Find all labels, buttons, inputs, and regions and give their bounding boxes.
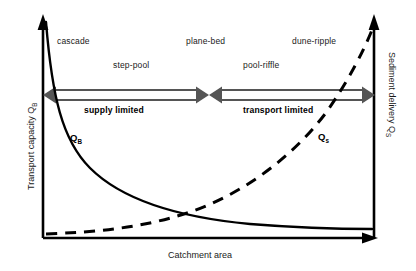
curve-label-qb-sub: B bbox=[77, 138, 82, 145]
channel-type-dune-ripple: dune-ripple bbox=[292, 36, 336, 46]
channel-type-step-pool: step-pool bbox=[113, 60, 149, 70]
diagram-canvas: cascade plane-bed dune-ripple step-pool … bbox=[0, 0, 416, 271]
y-axis-left-title-text: Transport capacity Q bbox=[26, 107, 36, 190]
regime-label-transport-limited: transport limited bbox=[243, 105, 313, 115]
curve-transport-capacity-qb bbox=[46, 22, 372, 229]
curve-label-qs: Qs bbox=[318, 131, 329, 144]
regime-arrow-group bbox=[43, 87, 375, 104]
regime-label-supply-limited: supply limited bbox=[84, 105, 144, 115]
y-axis-right-title: Sediment delivery QS bbox=[385, 52, 397, 137]
x-axis-title: Catchment area bbox=[168, 250, 232, 260]
y-axis-left-title-sub: B bbox=[31, 103, 38, 107]
channel-type-pool-riffle: pool-riffle bbox=[243, 60, 279, 70]
channel-type-plane-bed: plane-bed bbox=[186, 36, 225, 46]
y-axis-right-title-text: Sediment delivery Q bbox=[387, 52, 397, 133]
supply-limited-arrowhead-right bbox=[196, 87, 209, 104]
y-axis-right-arrowhead bbox=[369, 14, 380, 30]
transport-limited-arrowhead-left bbox=[209, 87, 222, 104]
curve-label-qb: QB bbox=[70, 132, 82, 145]
curve-label-qs-sub: s bbox=[325, 137, 329, 144]
x-axis-arrowhead bbox=[362, 233, 378, 244]
axis-group bbox=[38, 14, 380, 243]
y-axis-left-title: Transport capacity QB bbox=[26, 103, 38, 190]
y-axis-right-title-sub: S bbox=[385, 133, 392, 137]
channel-type-cascade: cascade bbox=[57, 36, 90, 46]
